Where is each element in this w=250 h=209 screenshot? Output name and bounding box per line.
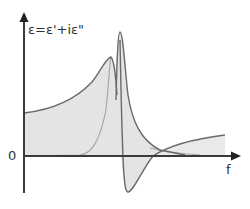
y-axis-arrow-icon — [20, 12, 29, 22]
x-axis-label: f — [226, 162, 231, 177]
tail-fill — [153, 135, 225, 156]
y-axis-label: ε=ε'+iε" — [28, 22, 84, 37]
x-axis-arrow-icon — [231, 152, 241, 161]
origin-label: 0 — [8, 148, 16, 163]
